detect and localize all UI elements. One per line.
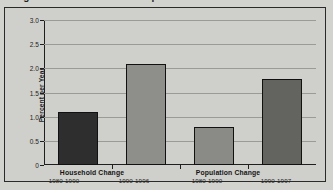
x-label-household-2: 1990-1996: [97, 177, 171, 184]
x-tick: [180, 165, 181, 169]
bar-4: [262, 79, 302, 165]
y-tick: [40, 165, 44, 166]
x-label-household-1: 1980-1990: [27, 177, 101, 184]
x-label-population-1: 1980-1990: [170, 177, 244, 184]
y-tick-label: 2.0: [30, 65, 39, 72]
x-label-population-2: 1990-1997: [239, 177, 313, 184]
gridline: [44, 68, 316, 69]
y-tick-label: 1.0: [30, 113, 39, 120]
bar-1: [58, 112, 98, 165]
y-tick: [40, 20, 44, 21]
y-tick-label: 0.5: [30, 137, 39, 144]
figure-title: Figure 1. Household and Population Growt…: [14, 0, 314, 3]
y-tick: [40, 93, 44, 94]
y-tick: [40, 68, 44, 69]
chart-frame: Percent per Year 3.02.52.01.51.00.50 Hou…: [4, 7, 326, 182]
bar-2: [126, 64, 166, 165]
group-label-population: Population Change: [183, 169, 273, 176]
group-label-household: Household Change: [49, 169, 135, 176]
gridline: [44, 44, 316, 45]
y-tick-label: 1.5: [30, 89, 39, 96]
y-tick: [40, 141, 44, 142]
bar-3: [194, 127, 234, 165]
figure-container: Figure 1. Household and Population Growt…: [0, 0, 333, 190]
plot-area: 3.02.52.01.51.00.50: [44, 20, 316, 165]
y-tick-label: 3.0: [30, 17, 39, 24]
y-tick: [40, 117, 44, 118]
y-tick-label: 2.5: [30, 41, 39, 48]
y-tick-label: 0: [35, 162, 39, 169]
gridline: [44, 20, 316, 21]
y-tick: [40, 44, 44, 45]
